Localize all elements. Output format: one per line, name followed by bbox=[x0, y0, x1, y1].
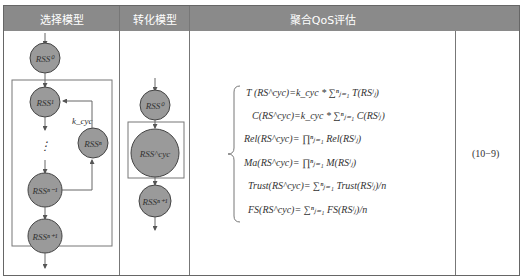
formula-brace bbox=[228, 86, 240, 222]
formula-trust: Trust(RS^cyc)= ∑ⁿⱼ₌₁ Trust(RSʲⱼ)/n bbox=[248, 180, 386, 191]
node-label: RSS⁰ bbox=[145, 101, 165, 111]
formula-maintainability: Ma(RS^cyc)= ∏ⁿⱼ₌₁ M(RSʲⱼ) bbox=[244, 157, 356, 168]
node-label: RSSⁿ⁻¹ bbox=[31, 186, 57, 196]
formula-time: T (RS^cyc)=k_cyc * ∑ⁿⱼ₌₁ T(RSʲⱼ) bbox=[246, 87, 379, 98]
node-label: RSS⁰ bbox=[35, 54, 55, 64]
formula-cost: C(RS^cyc)=k_cyc * ∑ⁿⱼ₌₁ C(RSʲⱼ) bbox=[252, 110, 385, 121]
node-label: RSSⁿ⁺¹ bbox=[141, 197, 167, 207]
ellipsis: ⋮ bbox=[39, 139, 51, 153]
node-label: RSSⁿ bbox=[83, 139, 101, 149]
loop-label-kcyc: k_cyc bbox=[72, 116, 92, 126]
feedback-arrow bbox=[62, 160, 92, 190]
node-label: RSS^cyc bbox=[139, 149, 170, 159]
formula-fs: FS(RS^cyc)= ∑ⁿⱼ₌₁ FS(RSʲⱼ)/n bbox=[248, 204, 367, 215]
formula-reliability: Rel(RS^cyc)= ∏ⁿⱼ₌₁ Rel(RSʲⱼ) bbox=[244, 133, 361, 144]
loop-frame bbox=[12, 80, 112, 246]
node-label: RSS¹ bbox=[35, 98, 53, 108]
node-label: RSSⁿ⁺¹ bbox=[31, 232, 57, 242]
equation-number: (10−9) bbox=[472, 148, 499, 159]
